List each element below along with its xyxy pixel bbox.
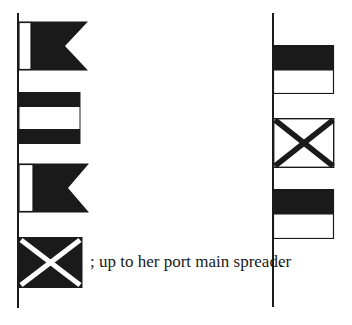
left-flag-3-swallowtail xyxy=(18,163,90,213)
left-flag-2-stripes xyxy=(18,92,82,144)
right-flag-3-black-over-white xyxy=(273,189,335,239)
right-flag-2-saltire xyxy=(273,118,335,168)
swallowtail-flag-icon xyxy=(18,163,90,213)
left-flag-4-saltire xyxy=(18,237,83,288)
bicolor-flag-icon xyxy=(273,189,335,239)
swallowtail-flag-icon xyxy=(18,21,90,71)
caption-end-mark: . xyxy=(279,253,283,270)
striped-flag-icon xyxy=(18,92,82,144)
saltire-flag-icon xyxy=(273,118,335,168)
caption-text: ; up to her port main spreader xyxy=(90,253,291,270)
bicolor-flag-icon xyxy=(273,45,335,94)
left-flag-1-swallowtail xyxy=(18,21,90,71)
right-flag-1-black-over-white xyxy=(273,45,335,94)
saltire-flag-icon xyxy=(18,237,83,288)
